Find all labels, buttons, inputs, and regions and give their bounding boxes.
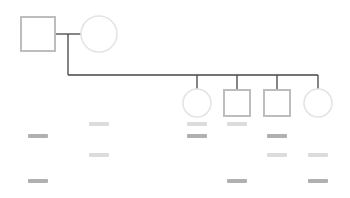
redacted-label-col-a-row4: [28, 179, 48, 183]
child-3-square-icon[interactable]: [264, 90, 290, 116]
redacted-label-child-2-row4: [227, 179, 247, 183]
redacted-label-child-3-row2: [267, 134, 287, 138]
redacted-label-child-1-row1: [187, 122, 207, 126]
redacted-label-child-4-row4: [308, 179, 328, 183]
redacted-label-child-1-row2: [187, 134, 207, 138]
mother-circle-icon[interactable]: [81, 16, 117, 52]
redacted-labels: [28, 122, 328, 183]
redacted-label-child-3-row3: [267, 153, 287, 157]
child-4-circle-icon[interactable]: [304, 89, 332, 117]
redacted-label-col-b-row3: [89, 153, 109, 157]
child-2-square-icon[interactable]: [224, 90, 250, 116]
redacted-label-child-2-row1: [227, 122, 247, 126]
child-1-circle-icon[interactable]: [183, 89, 211, 117]
redacted-label-col-a-row2: [28, 134, 48, 138]
father-square-icon[interactable]: [21, 17, 55, 51]
redacted-label-child-4-row3: [308, 153, 328, 157]
redacted-label-col-b-row1: [89, 122, 109, 126]
pedigree-diagram: [0, 0, 350, 198]
